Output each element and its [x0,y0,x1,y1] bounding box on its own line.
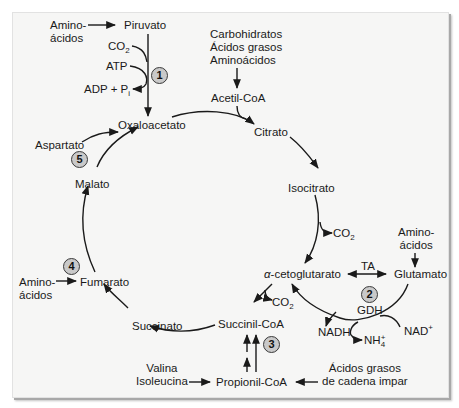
isoleucine-text: Isoleucina [136,375,188,388]
odd-fatty-acids-line2: de cadena impar [322,375,408,388]
odd-chain-fatty-acids-label: Ácidos grasos de cadena impar [322,362,408,388]
pyruvate-label: Piruvato [124,19,166,32]
nad-text: NAD [404,325,428,337]
ammonium-label: NH+4 [364,334,385,348]
alpha-ketoglutarate-label: α-cetoglutarato [264,268,341,281]
adp-pi-text: ADP + P [84,83,128,95]
step-badge-4: 4 [63,258,80,275]
pi-subscript: i [128,89,130,98]
oxaloacetate-label: Oxaloacetato [118,119,186,132]
valine-text: Valina [136,362,188,375]
step-badge-2: 2 [361,286,378,303]
acetyl-coa-label: Acetil-CoA [211,92,265,105]
step-badge-5: 5 [71,151,88,168]
co2-subscript: 2 [350,233,354,242]
malate-label: Malato [75,178,110,191]
fuel-sources-label: Carbohidratos Ácidos grasos Aminoácidos [210,28,282,67]
amino-acids-line1: Amino- [398,226,434,239]
glutamate-label: Glutamato [394,268,447,281]
step-badge-1: 1 [151,67,168,84]
nad-superscript: + [428,323,433,332]
amino-acids-label-top: Amino- ácidos [50,19,86,45]
amino-acids-line1: Amino- [50,19,86,32]
fatty-acids-text: Ácidos grasos [210,41,282,54]
co2-subscript: 2 [289,302,293,311]
amino-acids-line1: Amino- [19,276,55,289]
nad-plus-label: NAD+ [404,325,433,338]
odd-fatty-acids-line1: Ácidos grasos [322,362,408,375]
amino-acids-line2: ácidos [398,239,434,252]
gdh-label: GDH [357,304,383,317]
isocitrate-label: Isocitrato [288,182,335,195]
fumarate-label: Fumarato [80,276,129,289]
amino-acids-label-right: Amino- ácidos [398,226,434,252]
nh4-subscript: 4 [381,341,386,348]
adp-pi-label: ADP + Pi [84,83,130,96]
step-badge-3: 3 [263,336,280,353]
amino-acids-label-left: Amino- ácidos [19,276,55,302]
propionyl-coa-label: Propionil-CoA [216,376,287,389]
co2-text: CO [108,40,125,52]
nh-text: NH [364,334,381,346]
transaminase-label: TA [361,260,375,273]
co2-label-pyruvate: CO2 [108,40,130,53]
co2-text: CO [272,296,289,308]
succinyl-coa-label: Succinil-CoA [218,318,284,331]
aspartate-label: Aspartato [35,139,84,152]
carbohydrates-text: Carbohidratos [210,28,282,41]
co2-text: CO [333,227,350,239]
co2-label-succinyl: CO2 [272,296,294,309]
co2-subscript: 2 [125,46,129,55]
valine-isoleucine-label: Valina Isoleucina [136,362,188,388]
co2-label-isocitrate: CO2 [333,227,355,240]
atp-label: ATP [106,60,128,73]
alpha-kg-text: -cetoglutarato [271,268,341,280]
citrate-label: Citrato [254,126,288,139]
amino-acids-line2: ácidos [50,32,86,45]
nadh-label: NADH [318,326,351,339]
tca-cycle-figure: Amino- ácidos Piruvato CO2 ATP ADP + Pi … [0,0,459,408]
aminoacids-text: Aminoácidos [210,54,282,67]
amino-acids-line2: ácidos [19,289,55,302]
succinate-label: Succinato [132,320,183,333]
